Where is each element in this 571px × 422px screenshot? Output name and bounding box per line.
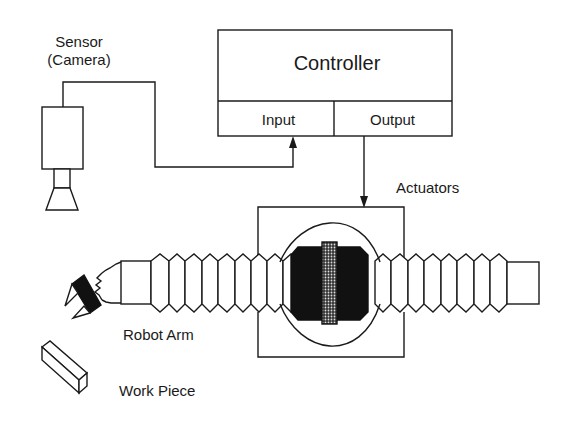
work-piece-icon: [42, 341, 87, 393]
actuators-label: Actuators: [396, 180, 459, 195]
sensor-label: Sensor (Camera): [37, 33, 121, 69]
output-to-actuators-connector: [360, 136, 368, 208]
actuator-core: [291, 242, 368, 324]
output-label: Output: [335, 112, 450, 127]
controller-label: Controller: [222, 53, 452, 73]
input-label: Input: [222, 112, 335, 127]
robot-control-diagram: Sensor (Camera) Controller Input Output …: [0, 0, 571, 422]
robot-arm-label: Robot Arm: [123, 327, 194, 342]
work-piece-label: Work Piece: [119, 383, 195, 398]
sensor-title: Sensor: [37, 33, 121, 51]
camera-icon: [42, 107, 83, 210]
gripper-icon: [65, 262, 121, 318]
sensor-subtitle: (Camera): [37, 51, 121, 69]
